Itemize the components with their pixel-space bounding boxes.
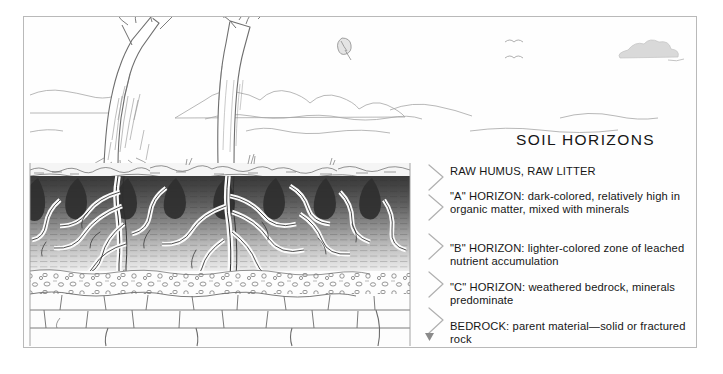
leader-arrow-icon	[425, 333, 434, 341]
label-raw-humus: RAW HUMUS, RAW LITTER	[450, 165, 700, 178]
tree-left	[104, 9, 172, 165]
label-bedrock: BEDROCK: parent material—solid or fractu…	[450, 320, 694, 346]
label-a-horizon: "A" HORIZON: dark-colored, relatively hi…	[450, 190, 694, 216]
tree-right	[218, 6, 270, 165]
figure-title: SOIL HORIZONS	[516, 131, 655, 149]
soil-horizons-figure: SOIL HORIZONS RAW HUMUS, RAW LITTER "A" …	[0, 0, 723, 374]
horizon-leader-bracket	[429, 165, 443, 333]
soil-profile-illustration	[0, 0, 723, 374]
label-c-horizon: "C" HORIZON: weathered bedrock, minerals…	[450, 281, 694, 307]
c-horizon-rubble	[30, 270, 410, 294]
label-b-horizon: "B" HORIZON: lighter-colored zone of lea…	[450, 242, 694, 268]
sky	[338, 38, 685, 61]
bedrock-layer	[30, 292, 410, 346]
